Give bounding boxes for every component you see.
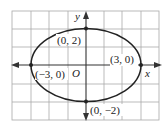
origin-label: O [72, 67, 80, 79]
label-right-point: (3, 0) [110, 53, 134, 66]
ellipse-graph: y x O (0, 2) (3, 0) (−3, 0) (0, −2) [0, 0, 167, 125]
label-bottom-point: (0, −2) [90, 104, 120, 117]
x-axis-label: x [144, 67, 150, 79]
x-axis-right-arrow-icon [154, 62, 162, 68]
point-right [139, 63, 143, 67]
point-bottom [84, 100, 88, 104]
y-axis-up-arrow-icon [83, 11, 89, 19]
label-top-point: (0, 2) [57, 34, 81, 47]
point-left [29, 63, 33, 67]
label-left-point: (−3, 0) [35, 68, 65, 81]
y-axis-label: y [74, 10, 80, 22]
point-top [84, 27, 88, 31]
